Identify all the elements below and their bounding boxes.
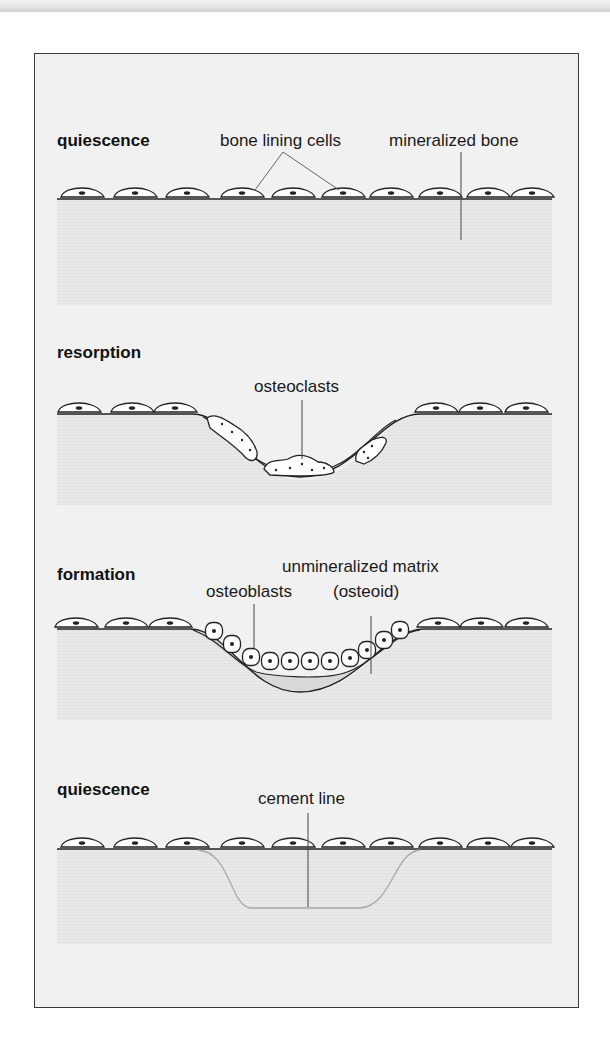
bone-region	[57, 200, 552, 305]
bone-region	[57, 629, 552, 720]
stage-quiescence-1: quiescence bone lining cells mineralized…	[57, 131, 554, 305]
stage-title: resorption	[57, 343, 141, 362]
bone-remodeling-diagram: quiescence bone lining cells mineralized…	[0, 0, 610, 1053]
stage-formation: formation unmineralized matrix osteoblas…	[55, 557, 552, 720]
stage-quiescence-2: quiescence cement line	[57, 780, 554, 944]
label-unmineralized-matrix: unmineralized matrix	[282, 557, 439, 576]
label-osteoclasts: osteoclasts	[254, 377, 339, 396]
label-osteoid: (osteoid)	[333, 582, 399, 601]
label-cement-line: cement line	[258, 789, 345, 808]
label-osteoblasts: osteoblasts	[206, 582, 292, 601]
stage-resorption: resorption osteoclasts	[57, 343, 552, 505]
stage-title: quiescence	[57, 131, 150, 150]
lining-cells	[55, 618, 548, 627]
stage-title: quiescence	[57, 780, 150, 799]
pointer-lines	[255, 152, 339, 190]
lining-cells	[58, 403, 548, 412]
bone-region	[57, 849, 552, 944]
label-mineralized-bone: mineralized bone	[389, 131, 518, 150]
stage-title: formation	[57, 565, 135, 584]
lining-cells	[61, 188, 554, 197]
label-bone-lining-cells: bone lining cells	[220, 131, 341, 150]
